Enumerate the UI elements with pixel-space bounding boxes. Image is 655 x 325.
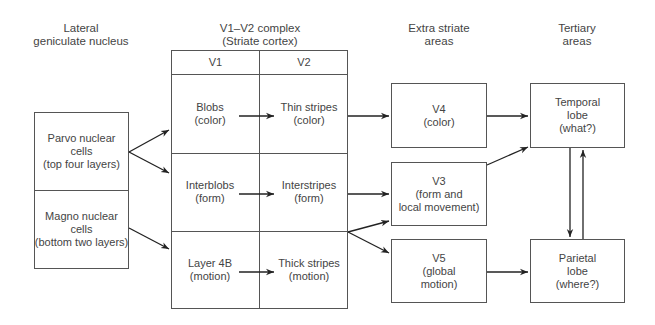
connection-arrows <box>0 0 655 325</box>
